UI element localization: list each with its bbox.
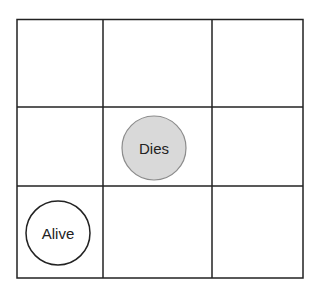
alive-cell: Alive (26, 201, 90, 265)
grid-diagram: Dies Alive (0, 0, 319, 292)
alive-label: Alive (42, 225, 75, 242)
dies-label: Dies (139, 140, 169, 157)
dies-cell: Dies (122, 116, 186, 180)
